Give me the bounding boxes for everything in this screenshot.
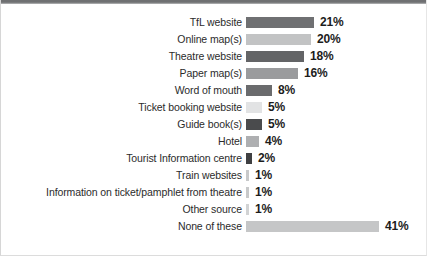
chart-row: Train websites1%: [1, 167, 427, 184]
bar: [246, 34, 311, 45]
bar-value-label: 18%: [310, 48, 333, 65]
bar: [246, 119, 262, 130]
bar: [246, 102, 262, 113]
category-label: Other source: [183, 201, 243, 218]
category-label: Hotel: [218, 133, 242, 150]
chart-row: Online map(s)20%: [1, 31, 427, 48]
bar-value-label: 20%: [317, 31, 340, 48]
chart-row: TfL website21%: [1, 14, 427, 31]
chart-row: None of these41%: [1, 218, 427, 235]
bar-value-label: 16%: [304, 65, 327, 82]
bar: [246, 51, 304, 62]
bar-chart: TfL website21%Online map(s)20%Theatre we…: [0, 0, 427, 256]
category-label: Online map(s): [177, 31, 242, 48]
bar: [246, 170, 249, 181]
bar-value-label: 21%: [320, 14, 343, 31]
chart-row: Other source1%: [1, 201, 427, 218]
category-label: Train websites: [176, 167, 242, 184]
chart-row: Ticket booking website5%: [1, 99, 427, 116]
bar-value-label: 4%: [265, 133, 282, 150]
category-label: Paper map(s): [180, 65, 242, 82]
category-label: Ticket booking website: [138, 99, 242, 116]
bar: [246, 187, 249, 198]
category-label: None of these: [178, 218, 242, 235]
category-label: Information on ticket/pamphlet from thea…: [46, 184, 242, 201]
bar: [246, 68, 298, 79]
chart-row: Tourist Information centre2%: [1, 150, 427, 167]
chart-row: Word of mouth8%: [1, 82, 427, 99]
category-label: Tourist Information centre: [126, 150, 242, 167]
bar-value-label: 8%: [278, 82, 295, 99]
bar: [246, 221, 379, 232]
bar: [246, 136, 259, 147]
category-label: Guide book(s): [177, 116, 242, 133]
bar: [246, 85, 272, 96]
chart-top-rule: [1, 0, 427, 4]
bar-value-label: 41%: [385, 218, 408, 235]
bar-value-label: 1%: [255, 167, 272, 184]
category-label: TfL website: [190, 14, 242, 31]
chart-row: Guide book(s)5%: [1, 116, 427, 133]
bar-value-label: 1%: [255, 201, 272, 218]
bar-value-label: 5%: [268, 99, 285, 116]
chart-plot-area: TfL website21%Online map(s)20%Theatre we…: [1, 14, 427, 235]
chart-row: Information on ticket/pamphlet from thea…: [1, 184, 427, 201]
bar-value-label: 5%: [268, 116, 285, 133]
bar: [246, 204, 249, 215]
category-label: Word of mouth: [175, 82, 242, 99]
chart-row: Hotel4%: [1, 133, 427, 150]
chart-row: Paper map(s)16%: [1, 65, 427, 82]
category-label: Theatre website: [169, 48, 242, 65]
bar-value-label: 2%: [258, 150, 275, 167]
bar-value-label: 1%: [255, 184, 272, 201]
bar: [246, 17, 314, 28]
chart-row: Theatre website18%: [1, 48, 427, 65]
bar: [246, 153, 252, 164]
